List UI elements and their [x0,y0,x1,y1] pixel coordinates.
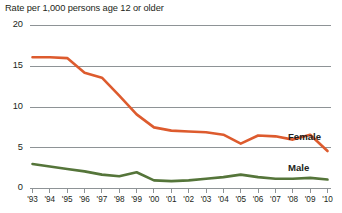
x-axis-tick-label: '05 [235,195,246,204]
x-axis-tick-label: '00 [149,195,160,204]
gridlines-group [30,26,331,189]
x-axis-tick-label: '02 [183,195,194,204]
x-axis-tick-label: '06 [253,195,264,204]
y-axis-tick-label: 15 [1,60,23,70]
x-axis-tick-label: '94 [45,195,56,204]
series-lines-group [33,57,328,181]
x-axis-tick-label: '07 [270,195,281,204]
x-axis-tick-label: '10 [322,195,333,204]
y-axis-tick-label: 20 [1,19,23,29]
x-axis-tick-label: '04 [218,195,229,204]
y-axis-tick-label: 5 [1,142,23,152]
x-axis-tick-label: '01 [166,195,177,204]
x-axis-tick-label: '09 [305,195,316,204]
x-axis-tick-label: '03 [201,195,212,204]
series-label-female: Female [288,131,321,142]
chart-container: Rate per 1,000 persons age 12 or older 0… [0,0,342,213]
x-axis-tick-label: '08 [287,195,298,204]
series-label-male: Male [288,162,309,173]
series-line-male [33,164,328,181]
y-axis-tick-label: 0 [1,182,23,192]
x-axis-tick-label: '95 [62,195,73,204]
x-axis-tick-marks [33,189,328,193]
series-line-female [33,57,328,151]
y-axis-tick-label: 10 [1,101,23,111]
x-axis-tick-label: '99 [131,195,142,204]
x-axis-tick-label: '93 [27,195,38,204]
chart-plot-area [0,0,342,213]
x-axis-tick-label: '96 [79,195,90,204]
x-axis-tick-label: '97 [97,195,108,204]
x-axis-tick-label: '98 [114,195,125,204]
